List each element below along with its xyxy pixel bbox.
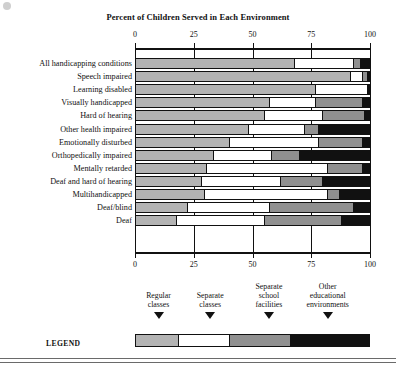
bar-segment xyxy=(136,203,187,212)
bar-segment xyxy=(136,151,213,160)
bar-segment xyxy=(269,203,353,212)
bar-segment xyxy=(341,216,369,225)
legend-title: LEGEND xyxy=(46,339,80,348)
stacked-bar xyxy=(135,150,370,161)
bar-segment xyxy=(136,85,315,94)
stacked-bar xyxy=(135,176,370,187)
stacked-bar xyxy=(135,58,370,69)
category-label: Mentally retarded xyxy=(0,164,135,173)
bar-segment xyxy=(304,125,318,134)
category-label: Other health impaired xyxy=(0,125,135,134)
stacked-bar xyxy=(135,71,370,82)
legend-pointer-arrow-icon xyxy=(264,312,274,319)
bar-segment xyxy=(322,111,364,120)
axis-tick-label-bottom-75: 75 xyxy=(296,260,326,269)
axis-tick-label-bottom-50: 50 xyxy=(238,260,268,269)
bar-segment xyxy=(204,190,327,199)
category-label: Orthopedically impaired xyxy=(0,151,135,160)
chart-page: Percent of Children Served in Each Envir… xyxy=(0,0,396,367)
legend-label-line: Other xyxy=(293,282,363,291)
bar-segment xyxy=(299,151,369,160)
bar-segment xyxy=(362,138,369,147)
bar-segment xyxy=(136,190,204,199)
legend-pointer-arrow-icon xyxy=(323,312,333,319)
bar-segment xyxy=(360,59,369,68)
axis-tick-label-bottom-0: 0 xyxy=(120,260,150,269)
bar-segment xyxy=(136,125,248,134)
bar-segment xyxy=(315,85,366,94)
stacked-bar xyxy=(135,137,370,148)
bar-segment xyxy=(318,125,369,134)
bar-segment xyxy=(367,85,369,94)
stacked-bar xyxy=(135,84,370,95)
category-label: Hard of hearing xyxy=(0,111,135,120)
bar-segment xyxy=(264,111,322,120)
axis-tick-bottom-75 xyxy=(311,252,312,258)
axis-tick-label-bottom-25: 25 xyxy=(179,260,209,269)
legend-bar-segment xyxy=(290,335,369,346)
stacked-bar xyxy=(135,163,370,174)
stacked-bar xyxy=(135,110,370,121)
axis-tick-bottom-50 xyxy=(253,252,254,258)
bar-segment xyxy=(327,164,362,173)
legend-callout-labels: RegularclassesSeparateclassesSeparatesch… xyxy=(135,282,380,318)
bar-segment xyxy=(136,177,201,186)
bar-segment xyxy=(136,216,176,225)
axis-tick-label-top-50: 50 xyxy=(238,30,268,39)
legend-label-line: educational xyxy=(293,291,363,300)
axis-tick-label-top-100: 100 xyxy=(355,30,385,39)
legend-item-label: Othereducationalenvironments xyxy=(293,282,363,309)
axis-tick-bottom-0 xyxy=(135,252,136,258)
bar-segment xyxy=(367,72,369,81)
bar-segment xyxy=(136,138,229,147)
bar-segment xyxy=(362,98,369,107)
legend-bar-segment xyxy=(178,335,229,346)
bar-segment xyxy=(248,125,304,134)
bar-segment xyxy=(206,164,327,173)
legend-label-line: environments xyxy=(293,300,363,309)
stacked-bar xyxy=(135,189,370,200)
bar-segment xyxy=(229,138,318,147)
bar-segment xyxy=(264,216,341,225)
axis-tick-label-top-0: 0 xyxy=(120,30,150,39)
bar-segment xyxy=(364,111,369,120)
stacked-bar xyxy=(135,97,370,108)
bar-segment xyxy=(271,151,299,160)
stacked-bar xyxy=(135,215,370,226)
legend-bar xyxy=(135,334,370,347)
axis-tick-bottom-25 xyxy=(194,252,195,258)
bar-segment xyxy=(136,111,264,120)
stacked-bar xyxy=(135,124,370,135)
bar-segment xyxy=(339,190,369,199)
category-label: Deaf and hard of hearing xyxy=(0,177,135,186)
category-label: Emotionally disturbed xyxy=(0,138,135,147)
bar-segment xyxy=(322,177,369,186)
bar-segment xyxy=(176,216,265,225)
bar-segment xyxy=(269,98,316,107)
legend-pointer-arrow-icon xyxy=(154,312,164,319)
category-label: All handicapping conditions xyxy=(0,59,135,68)
bar-segment xyxy=(294,59,352,68)
category-label: Visually handicapped xyxy=(0,98,135,107)
bar-segment xyxy=(353,203,369,212)
axis-tick-bottom-100 xyxy=(370,252,371,258)
category-label: Speech impaired xyxy=(0,72,135,81)
bar-segment xyxy=(213,151,271,160)
bar-segment xyxy=(136,164,206,173)
bar-segment xyxy=(187,203,269,212)
bar-segment xyxy=(353,59,360,68)
bar-segment xyxy=(136,98,269,107)
category-label: Deaf/blind xyxy=(0,203,135,212)
bar-segment xyxy=(136,72,350,81)
stacked-bar xyxy=(135,202,370,213)
category-label: Multihandicapped xyxy=(0,190,135,199)
category-label: Deaf xyxy=(0,216,135,225)
bottom-divider xyxy=(0,358,396,363)
gridline-100 xyxy=(370,48,371,252)
axis-tick-label-bottom-100: 100 xyxy=(355,260,385,269)
bar-segment xyxy=(136,59,294,68)
axis-tick-label-top-75: 75 xyxy=(296,30,326,39)
bar-segment xyxy=(280,177,322,186)
legend-bar-segment xyxy=(229,335,290,346)
bar-segment xyxy=(327,190,339,199)
